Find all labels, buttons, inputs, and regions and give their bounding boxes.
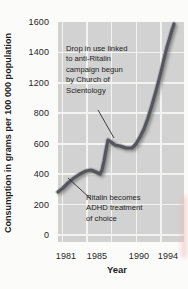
x-tick-label: 1981 [56, 251, 76, 261]
h-gridline [58, 143, 184, 145]
y-tick-label: 400 [13, 169, 49, 179]
y-tick-label: 1600 [13, 17, 49, 27]
v-gridline [62, 22, 64, 242]
annotation-line: of choice [86, 214, 142, 224]
annotation-line: to anti-Ritalin [66, 54, 128, 64]
y-tick-label: 1400 [13, 47, 49, 57]
annotation-line: campaign begun [66, 65, 128, 75]
y-tick-label: 0 [13, 230, 49, 240]
v-gridline [160, 22, 162, 242]
h-gridline [58, 234, 184, 236]
annotation: Drop in use linkedto anti-Ritalincampaig… [66, 44, 128, 96]
annotation: Ritalin becomesADHD treatmentof choice [86, 193, 142, 224]
figure: Consumption in grams per 100 000 populat… [0, 0, 188, 289]
x-tick-label: 1994 [158, 251, 178, 261]
pink-scan-artifact [181, 196, 187, 258]
annotation-line: by Church of [66, 75, 128, 85]
y-tick-label: 1200 [13, 78, 49, 88]
y-axis-title: Consumption in grams per 100 000 populat… [3, 7, 13, 259]
x-axis-title: Year [107, 264, 127, 275]
annotation-line: Drop in use linked [66, 44, 128, 54]
x-tick-label: 1990 [129, 251, 149, 261]
h-gridline [58, 112, 184, 114]
y-tick-label: 800 [13, 108, 49, 118]
annotation-line: Scientology [66, 86, 128, 96]
h-gridline [58, 173, 184, 175]
annotation-line: Ritalin becomes [86, 193, 142, 203]
y-tick-label: 200 [13, 200, 49, 210]
annotation-line: ADHD treatment [86, 203, 142, 213]
y-tick-label: 600 [13, 139, 49, 149]
x-tick-label: 1985 [87, 251, 107, 261]
